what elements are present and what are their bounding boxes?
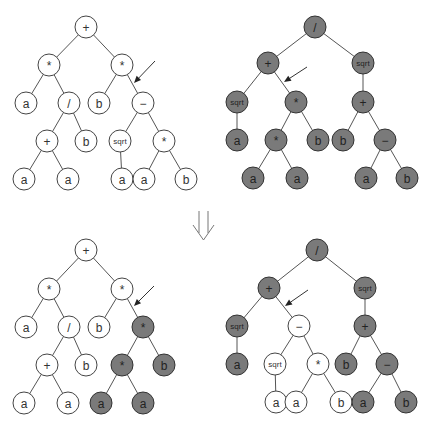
node-label: − [381,134,388,148]
node-label: a [360,396,367,410]
tree-node: + [36,354,58,376]
tree-node: a [111,168,133,190]
node-label: + [43,135,50,149]
tree-node: − [288,315,310,337]
node-label: a [293,396,300,410]
tree-node: a [352,391,374,413]
node-label: * [120,283,125,297]
tree-node: a [57,168,79,190]
tree-node: a [132,392,154,414]
tree-node: a [286,167,308,189]
tree-node: b [88,92,110,114]
node-label: b [315,134,322,148]
node-label: b [161,359,168,373]
tree-node: b [75,354,97,376]
node-label: * [316,358,321,372]
tree-node: b [153,354,175,376]
double-down-arrow-icon [193,211,214,240]
tree-node: + [75,16,97,38]
node-label: − [295,320,302,334]
node-label: a [65,397,72,411]
edges-layer [24,27,407,403]
node-label: sqrt [358,284,372,293]
node-label: b [340,134,347,148]
tree-node: * [153,130,175,152]
node-label: + [82,21,89,35]
tree-node: a [13,392,35,414]
tree-node: sqrt [226,91,248,113]
tree-node: / [58,92,80,114]
node-label: + [265,282,272,296]
node-label: b [404,172,411,186]
crossover-point-arrow-icon [285,290,308,306]
tree-node: a [13,168,35,190]
tree-node: a [285,391,307,413]
node-label: + [359,96,366,110]
tree-node: sqrt [354,277,376,299]
node-label: + [264,57,271,71]
tree-node: * [111,354,133,376]
tree-node: + [36,130,58,152]
node-label: a [65,173,72,187]
tree-node: / [306,239,328,261]
tree-node: * [38,54,60,76]
node-label: a [119,173,126,187]
tree-node: a [57,392,79,414]
tree-node: / [58,316,80,338]
node-label: sqrt [230,322,244,331]
node-label: − [139,97,146,111]
node-label: a [363,172,370,186]
tree-node: − [132,92,154,114]
tree-node: − [374,129,396,151]
node-label: sqrt [113,137,127,146]
tree-node: a [15,92,37,114]
tree-node: / [304,16,326,38]
tree-node: + [75,239,97,261]
node-label: b [83,135,90,149]
node-label: * [120,359,125,373]
node-label: a [141,173,148,187]
node-label: b [338,396,345,410]
crossover-diagram: +**a/b−+bsqrt*aaaab/+sqrtsqrt*+a*bb−aaab… [0,0,436,424]
tree-node: + [257,52,279,74]
tree-node: * [307,353,329,375]
node-label: a [294,172,301,186]
tree-node: + [352,91,374,113]
node-label: a [234,134,241,148]
tree-node: a [226,129,248,151]
node-label: + [82,244,89,258]
arrows-layer [134,61,308,306]
tree-node: * [265,129,287,151]
node-label: sqrt [230,98,244,107]
tree-node: a [90,392,112,414]
tree-node: sqrt [352,52,374,74]
node-label: b [83,359,90,373]
node-label: a [234,358,241,372]
tree-node: b [75,130,97,152]
tree-node: * [132,316,154,338]
node-label: b [403,396,410,410]
tree-node: b [88,316,110,338]
tree-node: a [242,167,264,189]
crossover-point-arrow-icon [284,67,307,82]
node-label: b [96,321,103,335]
tree-node: a [15,316,37,338]
node-label: a [98,397,105,411]
node-label: a [21,397,28,411]
node-label: − [383,358,390,372]
tree-node: b [332,129,354,151]
tree-node: * [111,278,133,300]
node-label: b [183,173,190,187]
crossover-point-arrow-icon [134,61,155,83]
tree-node: sqrt [264,353,286,375]
tree-node: + [354,315,376,337]
node-label: a [23,321,30,335]
tree-node: sqrt [109,130,131,152]
node-label: a [23,97,30,111]
node-label: a [273,396,280,410]
crossover-point-arrow-icon [134,286,154,306]
tree-node: a [355,167,377,189]
node-label: * [294,96,299,110]
tree-node: a [133,168,155,190]
node-label: b [96,97,103,111]
